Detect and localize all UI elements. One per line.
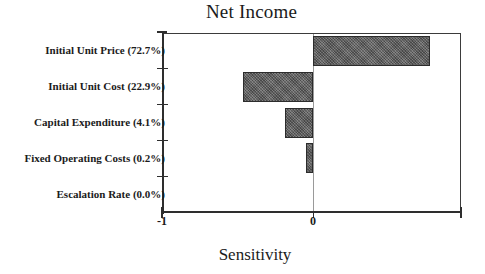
y-axis-tick-4 — [157, 176, 168, 177]
tornado-chart: Net Income Initial Unit Price (72.7%) In… — [0, 0, 485, 274]
x-axis-tick-max — [460, 207, 462, 218]
bar-capital-expenditure — [285, 108, 313, 138]
x-tick-label-zero: 0 — [303, 214, 323, 229]
category-label-initial-unit-price: Initial Unit Price (72.7%) — [45, 44, 165, 56]
y-axis-tick-1 — [157, 68, 168, 69]
chart-title: Net Income — [0, 1, 485, 23]
category-label-escalation-rate: Escalation Rate (0.0%) — [57, 188, 165, 200]
x-axis-title: Sensitivity — [190, 245, 320, 265]
category-label-capital-expenditure: Capital Expenditure (4.1%) — [34, 116, 165, 128]
bar-initial-unit-cost — [243, 72, 313, 102]
x-tick-label-min: -1 — [152, 214, 172, 229]
x-axis-line — [161, 211, 462, 213]
y-axis-tick-2 — [157, 104, 168, 105]
bar-initial-unit-price — [313, 36, 430, 66]
category-label-initial-unit-cost: Initial Unit Cost (22.9%) — [48, 80, 165, 92]
category-label-fixed-operating-costs: Fixed Operating Costs (0.2%) — [24, 152, 165, 164]
y-axis-top-cap — [157, 31, 167, 33]
bar-fixed-operating-costs — [306, 143, 313, 173]
y-axis-tick-3 — [157, 140, 168, 141]
